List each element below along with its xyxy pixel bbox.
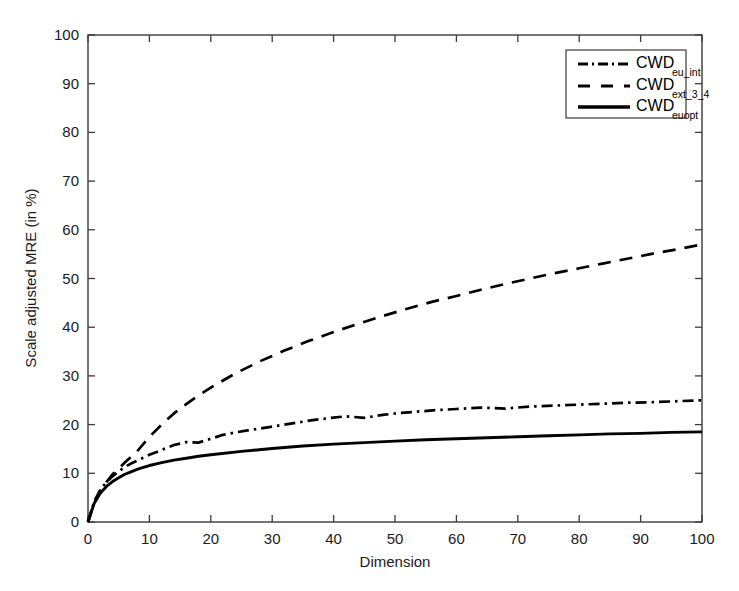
y-tick-label: 60 — [62, 221, 79, 238]
x-tick-label: 100 — [689, 530, 714, 547]
legend-label-main-euopt: CWD — [636, 97, 674, 114]
y-tick-label: 40 — [62, 318, 79, 335]
y-tick-label: 70 — [62, 172, 79, 189]
y-axis-title: Scale adjusted MRE (in %) — [22, 188, 39, 367]
x-axis-title: Dimension — [360, 553, 431, 570]
y-tick-label: 0 — [71, 513, 79, 530]
y-tick-label: 90 — [62, 75, 79, 92]
x-tick-label: 90 — [632, 530, 649, 547]
y-tick-label: 30 — [62, 367, 79, 384]
y-tick-label: 80 — [62, 123, 79, 140]
y-tick-label: 20 — [62, 416, 79, 433]
chart-figure: 0102030405060708090100 01020304050607080… — [0, 0, 739, 591]
legend-label-sub-eu_int: eu_int — [672, 66, 701, 78]
x-tick-label: 0 — [84, 530, 92, 547]
x-tick-label: 20 — [202, 530, 219, 547]
x-tick-label: 10 — [141, 530, 158, 547]
y-tick-label: 10 — [62, 464, 79, 481]
legend-label-main-eu_int: CWD — [636, 54, 674, 71]
x-tick-label: 30 — [264, 530, 281, 547]
x-tick-label: 60 — [448, 530, 465, 547]
legend-label-sub-euopt: euopt — [672, 109, 698, 121]
x-tick-label: 40 — [325, 530, 342, 547]
x-tick-label: 70 — [509, 530, 526, 547]
line-chart: 0102030405060708090100 01020304050607080… — [0, 0, 739, 591]
legend-label-main-ext_3_4: CWD — [636, 76, 674, 93]
legend-label-sub-ext_3_4: ext_3_4 — [672, 88, 710, 100]
y-tick-label: 50 — [62, 270, 79, 287]
x-tick-label: 80 — [571, 530, 588, 547]
y-tick-label: 100 — [54, 26, 79, 43]
x-tick-label: 50 — [387, 530, 404, 547]
